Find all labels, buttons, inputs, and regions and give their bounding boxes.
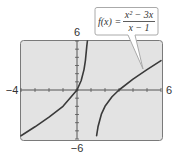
x-max-label: 6 bbox=[166, 84, 172, 96]
y-min-label: −6 bbox=[71, 142, 84, 154]
graph-figure: 6 −6 −4 6 f(x) = x² − 3x x − 1 bbox=[0, 0, 181, 156]
function-numerator: x² − 3x bbox=[124, 9, 154, 20]
x-min-label: −4 bbox=[6, 84, 19, 96]
function-denominator: x − 1 bbox=[127, 22, 149, 33]
function-lhs: f(x) = bbox=[98, 16, 121, 28]
y-max-label: 6 bbox=[74, 26, 80, 38]
